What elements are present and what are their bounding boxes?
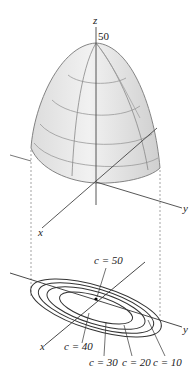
contour-center-point [94, 297, 97, 300]
contour-x-label: x [39, 340, 45, 352]
level-label-c20: c = 20 [122, 356, 151, 368]
level-label-c10: c = 10 [153, 356, 182, 368]
x-axis-label: x [37, 226, 43, 238]
contour-map [25, 267, 168, 349]
contour-axes: x y c = 50 c = 40 c = 30 c = 20 c = 10 [10, 254, 188, 368]
paraboloid-surface [31, 43, 160, 183]
apex-value-label: 50 [98, 30, 110, 42]
surface-plot: z 50 x y [10, 14, 188, 316]
contour-c40 [56, 285, 136, 330]
level-label-c30: c = 30 [89, 356, 118, 368]
contour-y-label: y [182, 323, 188, 335]
level-label-c40: c = 40 [64, 340, 93, 352]
y-axis [96, 182, 182, 208]
contour-c20 [33, 272, 159, 343]
contour-c30 [43, 278, 150, 338]
paraboloid-figure: z 50 x y x y c = 50 c = 40 c = 30 c = 20… [0, 0, 190, 372]
z-axis-label: z [92, 14, 98, 26]
y-axis-label: y [182, 202, 188, 214]
level-label-c50: c = 50 [94, 254, 123, 266]
contour-x-axis [45, 262, 145, 345]
contour-c10 [25, 267, 168, 349]
y-axis-back [10, 155, 31, 161]
